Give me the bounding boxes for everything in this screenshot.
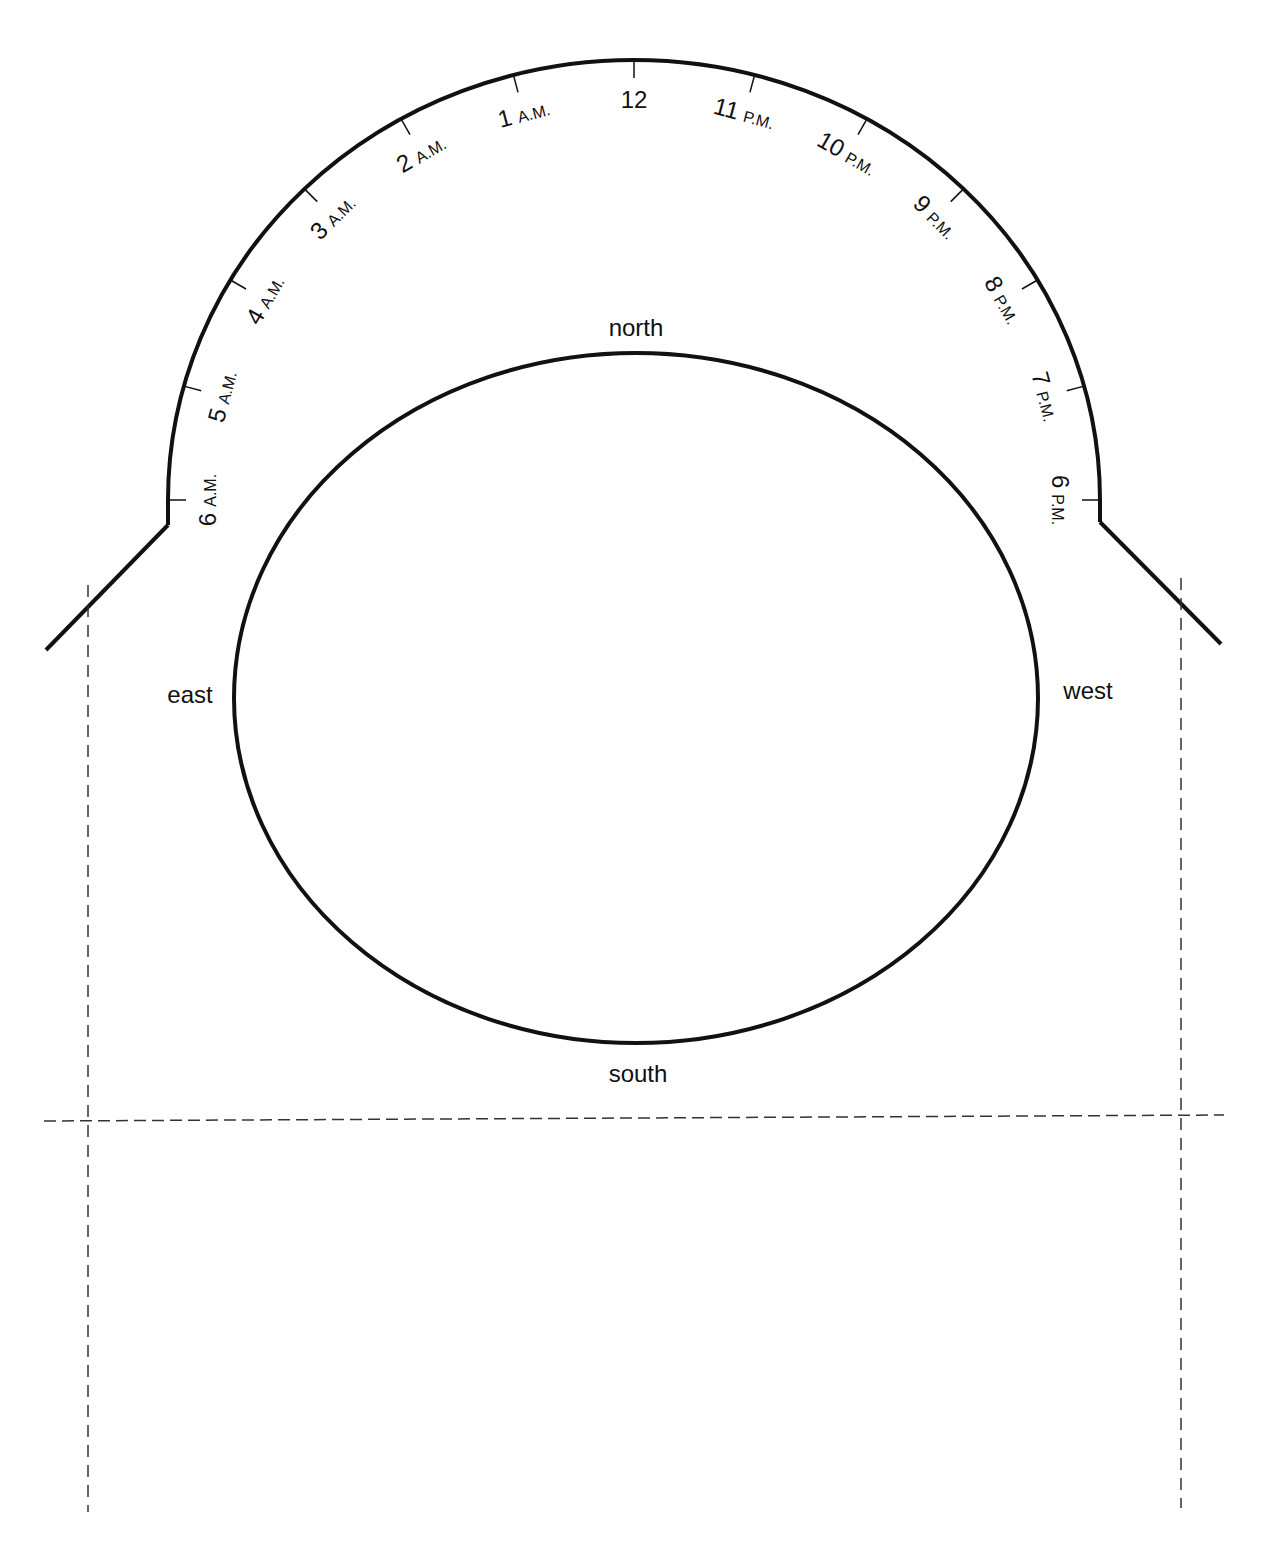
hour-tick (513, 75, 518, 92)
hour-label: 5A.M. (202, 368, 242, 425)
hour-label: 8P.M. (979, 271, 1027, 328)
hour-ticks (168, 60, 1100, 500)
hour-tick (184, 386, 201, 391)
hour-tick (1022, 280, 1038, 289)
hour-labels: 6A.M.5A.M.4A.M.3A.M.2A.M.1A.M.1211P.M.10… (194, 86, 1074, 526)
horizon-ellipse (234, 353, 1038, 1043)
sundial-diagram: 6A.M.5A.M.4A.M.3A.M.2A.M.1A.M.1211P.M.10… (0, 0, 1262, 1552)
hour-tick (750, 75, 755, 92)
hour-tick (401, 119, 410, 135)
hour-tick (951, 189, 964, 202)
hour-label: 10P.M. (813, 126, 882, 181)
hour-label: 12 (621, 86, 648, 113)
hour-label: 4A.M. (240, 270, 290, 329)
left-flap-line (46, 525, 168, 650)
direction-south: south (609, 1060, 668, 1087)
hour-tick (304, 189, 317, 202)
hour-label: 1A.M. (495, 93, 552, 133)
direction-west: west (1062, 677, 1113, 704)
hour-label: 6P.M. (1047, 475, 1074, 525)
hour-tick (858, 119, 867, 135)
direction-north: north (609, 314, 664, 341)
hour-arch (168, 60, 1100, 525)
hour-label: 11P.M. (711, 92, 778, 134)
right-flap-line (1100, 522, 1221, 644)
hour-label: 7P.M. (1026, 369, 1065, 424)
horizontal-dashed-line (44, 1115, 1224, 1121)
hour-label: 2A.M. (391, 128, 450, 178)
hour-label: 6A.M. (194, 474, 221, 526)
direction-east: east (167, 681, 213, 708)
hour-tick (1067, 386, 1084, 391)
hour-tick (230, 280, 246, 289)
